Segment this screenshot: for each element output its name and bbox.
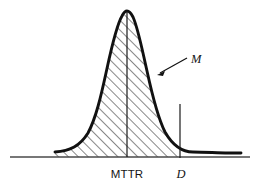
maintainability-curve-figure: M MTTR D (0, 0, 260, 184)
leader-arrowhead-icon (157, 71, 165, 76)
mttr-axis-label: MTTR (111, 168, 144, 180)
figure-canvas: M MTTR D (0, 0, 260, 184)
curve-label-m: M (190, 52, 202, 66)
deadline-axis-label: D (175, 167, 185, 181)
leader-line (160, 58, 187, 73)
curve-label-leader (157, 58, 187, 76)
